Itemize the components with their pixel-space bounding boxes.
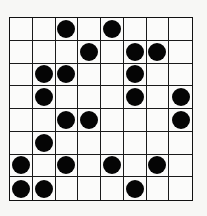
- board-cell-r1-c3[interactable]: [78, 41, 101, 64]
- board-cell-r6-c6[interactable]: [147, 155, 170, 178]
- board-cell-r7-c2[interactable]: [56, 177, 79, 200]
- board-cell-r2-c4[interactable]: [101, 64, 124, 87]
- black-stone: [57, 111, 75, 129]
- black-stone: [57, 65, 75, 83]
- board-cell-r6-c2[interactable]: [56, 155, 79, 178]
- board-cell-r1-c1[interactable]: [33, 41, 56, 64]
- board-cell-r6-c1[interactable]: [33, 155, 56, 178]
- board-cell-r0-c1[interactable]: [33, 18, 56, 41]
- board-cell-r5-c5[interactable]: [124, 132, 147, 155]
- black-stone: [148, 156, 166, 174]
- board-cell-r0-c5[interactable]: [124, 18, 147, 41]
- board-cell-r4-c2[interactable]: [56, 109, 79, 132]
- board-cell-r2-c0[interactable]: [10, 64, 33, 87]
- board-cell-r3-c1[interactable]: [33, 86, 56, 109]
- board-cell-r4-c3[interactable]: [78, 109, 101, 132]
- board-cell-r3-c6[interactable]: [147, 86, 170, 109]
- board-cell-r0-c2[interactable]: [56, 18, 79, 41]
- board-cell-r3-c3[interactable]: [78, 86, 101, 109]
- board-cell-r6-c5[interactable]: [124, 155, 147, 178]
- black-stone: [126, 65, 144, 83]
- board-cell-r0-c4[interactable]: [101, 18, 124, 41]
- board-cell-r6-c3[interactable]: [78, 155, 101, 178]
- board-cell-r5-c1[interactable]: [33, 132, 56, 155]
- black-stone: [57, 156, 75, 174]
- board-cell-r7-c3[interactable]: [78, 177, 101, 200]
- black-stone: [172, 88, 190, 106]
- board-cell-r2-c2[interactable]: [56, 64, 79, 87]
- board-cell-r0-c0[interactable]: [10, 18, 33, 41]
- board-cell-r7-c4[interactable]: [101, 177, 124, 200]
- board-cell-r5-c7[interactable]: [169, 132, 192, 155]
- board-cell-r2-c6[interactable]: [147, 64, 170, 87]
- board-cell-r2-c1[interactable]: [33, 64, 56, 87]
- black-stone: [148, 43, 166, 61]
- board-cell-r7-c0[interactable]: [10, 177, 33, 200]
- board-cell-r4-c7[interactable]: [169, 109, 192, 132]
- board-cell-r4-c6[interactable]: [147, 109, 170, 132]
- board-cell-r6-c7[interactable]: [169, 155, 192, 178]
- game-board: [9, 17, 193, 201]
- black-stone: [172, 111, 190, 129]
- board-cell-r5-c0[interactable]: [10, 132, 33, 155]
- board-cell-r1-c2[interactable]: [56, 41, 79, 64]
- board-cell-r7-c6[interactable]: [147, 177, 170, 200]
- black-stone: [126, 88, 144, 106]
- black-stone: [57, 20, 75, 38]
- board-cell-r2-c3[interactable]: [78, 64, 101, 87]
- board-cell-r5-c6[interactable]: [147, 132, 170, 155]
- board-cell-r3-c2[interactable]: [56, 86, 79, 109]
- board-cell-r6-c0[interactable]: [10, 155, 33, 178]
- board-cell-r5-c2[interactable]: [56, 132, 79, 155]
- board-cell-r2-c7[interactable]: [169, 64, 192, 87]
- board-cell-r3-c0[interactable]: [10, 86, 33, 109]
- black-stone: [126, 180, 144, 198]
- board-cell-r0-c6[interactable]: [147, 18, 170, 41]
- board-cell-r1-c0[interactable]: [10, 41, 33, 64]
- black-stone: [35, 88, 53, 106]
- board-cell-r4-c5[interactable]: [124, 109, 147, 132]
- black-stone: [12, 156, 30, 174]
- board-cell-r7-c5[interactable]: [124, 177, 147, 200]
- black-stone: [126, 43, 144, 61]
- board-cell-r4-c4[interactable]: [101, 109, 124, 132]
- black-stone: [103, 20, 121, 38]
- board-cell-r6-c4[interactable]: [101, 155, 124, 178]
- board-cell-r0-c7[interactable]: [169, 18, 192, 41]
- board-cell-r1-c6[interactable]: [147, 41, 170, 64]
- board-cell-r5-c3[interactable]: [78, 132, 101, 155]
- black-stone: [80, 43, 98, 61]
- board-cell-r7-c7[interactable]: [169, 177, 192, 200]
- board-cell-r5-c4[interactable]: [101, 132, 124, 155]
- board-cell-r3-c4[interactable]: [101, 86, 124, 109]
- board-cell-r3-c7[interactable]: [169, 86, 192, 109]
- black-stone: [35, 180, 53, 198]
- black-stone: [35, 134, 53, 152]
- board-cell-r4-c1[interactable]: [33, 109, 56, 132]
- board-cell-r2-c5[interactable]: [124, 64, 147, 87]
- board-cell-r4-c0[interactable]: [10, 109, 33, 132]
- black-stone: [12, 180, 30, 198]
- board-cell-r1-c5[interactable]: [124, 41, 147, 64]
- black-stone: [103, 156, 121, 174]
- board-cell-r1-c4[interactable]: [101, 41, 124, 64]
- board-cell-r7-c1[interactable]: [33, 177, 56, 200]
- black-stone: [35, 65, 53, 83]
- board-cell-r1-c7[interactable]: [169, 41, 192, 64]
- black-stone: [80, 111, 98, 129]
- board-cell-r3-c5[interactable]: [124, 86, 147, 109]
- board-cell-r0-c3[interactable]: [78, 18, 101, 41]
